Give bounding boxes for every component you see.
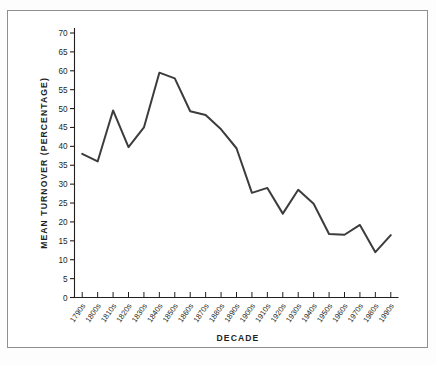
y-tick-label: 35 xyxy=(58,161,68,170)
y-tick-label: 0 xyxy=(63,294,68,303)
y-tick-label: 20 xyxy=(58,218,68,227)
y-tick-label: 70 xyxy=(58,29,68,38)
y-tick-label: 15 xyxy=(58,237,68,246)
chart-figure: 0510152025303540455055606570 1790s1800s1… xyxy=(0,0,436,365)
x-axis: 1790s1800s1810s1820s1830s1840s1850s1860s… xyxy=(68,292,398,324)
y-tick-label: 65 xyxy=(58,48,68,57)
y-tick-label: 10 xyxy=(58,256,68,265)
data-series-line xyxy=(82,73,391,252)
y-tick-label: 25 xyxy=(58,199,68,208)
x-tick-label: 1990s xyxy=(377,302,396,324)
series-line-mean-turnover xyxy=(82,73,391,252)
y-tick-label: 60 xyxy=(58,67,68,76)
y-tick-label: 45 xyxy=(58,123,68,132)
x-axis-title: DECADE xyxy=(217,333,260,343)
y-axis: 0510152025303540455055606570 xyxy=(58,28,74,303)
y-tick-label: 5 xyxy=(63,275,68,284)
y-axis-title: MEAN TURNOVER (PERCENTAGE) xyxy=(39,77,49,249)
line-chart: 0510152025303540455055606570 1790s1800s1… xyxy=(0,0,436,365)
y-tick-label: 30 xyxy=(58,180,68,189)
y-tick-label: 50 xyxy=(58,105,68,114)
y-tick-label: 55 xyxy=(58,86,68,95)
y-tick-label: 40 xyxy=(58,142,68,151)
